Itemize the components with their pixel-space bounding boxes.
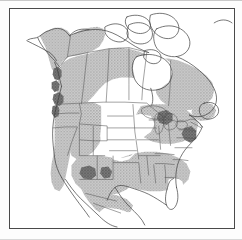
scan-rule-top — [0, 0, 242, 1]
north-america-map — [10, 9, 234, 228]
range-map-figure: North America species range map — [0, 0, 242, 240]
map-frame — [9, 8, 235, 229]
